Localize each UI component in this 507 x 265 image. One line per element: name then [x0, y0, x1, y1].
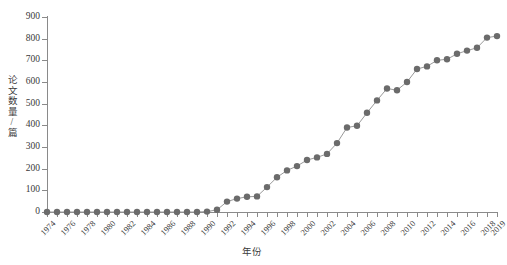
data-point [224, 198, 230, 204]
data-point [374, 97, 380, 103]
x-tick [157, 213, 158, 217]
x-tick [77, 213, 78, 217]
y-tick-label: 900 [0, 12, 40, 22]
y-tick-label-wrap: 700 [0, 55, 40, 65]
x-tick [207, 213, 208, 217]
x-tick [47, 213, 48, 217]
x-tick [287, 213, 288, 217]
x-tick [417, 213, 418, 217]
x-tick [297, 213, 298, 217]
x-axis-line [47, 212, 498, 213]
x-tick [487, 213, 488, 217]
y-tick-label-wrap: 800 [0, 34, 40, 44]
data-point [384, 85, 390, 91]
data-point [274, 174, 280, 180]
y-tick [42, 104, 47, 105]
y-tick [42, 147, 47, 148]
data-point [264, 184, 270, 190]
y-tick [42, 60, 47, 61]
x-tick [137, 213, 138, 217]
x-tick [87, 213, 88, 217]
data-point [424, 63, 430, 69]
data-point [444, 56, 450, 62]
y-tick-label-wrap: 200 [0, 164, 40, 174]
x-tick [177, 213, 178, 217]
y-tick [42, 17, 47, 18]
y-tick-label: 100 [0, 185, 40, 195]
y-tick-label-wrap: 600 [0, 77, 40, 87]
x-tick [267, 213, 268, 217]
data-point [244, 194, 250, 200]
x-tick [217, 213, 218, 217]
y-tick-label: 600 [0, 77, 40, 87]
data-point [284, 167, 290, 173]
x-tick [107, 213, 108, 217]
y-tick-label: 200 [0, 164, 40, 174]
y-tick [42, 190, 47, 191]
x-tick [447, 213, 448, 217]
x-tick [187, 213, 188, 217]
x-tick [57, 213, 58, 217]
x-tick [457, 213, 458, 217]
x-tick [337, 213, 338, 217]
data-point [364, 110, 370, 116]
data-point [394, 87, 400, 93]
data-point [334, 140, 340, 146]
data-point [484, 34, 490, 40]
y-tick-label: 800 [0, 34, 40, 44]
y-tick [42, 169, 47, 170]
data-point [454, 51, 460, 57]
y-tick-label-wrap: 900 [0, 12, 40, 22]
x-tick [97, 213, 98, 217]
x-tick [387, 213, 388, 217]
x-tick [307, 213, 308, 217]
data-point [434, 57, 440, 63]
y-tick-label-wrap: 300 [0, 142, 40, 152]
data-point [474, 45, 480, 51]
y-tick [42, 39, 47, 40]
series-line [47, 36, 497, 212]
series-markers [44, 33, 500, 215]
y-tick [42, 125, 47, 126]
y-tick-label-wrap: 400 [0, 120, 40, 130]
x-tick [407, 213, 408, 217]
x-tick [67, 213, 68, 217]
data-point [354, 123, 360, 129]
data-point [414, 66, 420, 72]
y-tick [42, 82, 47, 83]
x-tick [277, 213, 278, 217]
y-tick-label: 0 [0, 207, 40, 217]
x-tick [377, 213, 378, 217]
x-tick [397, 213, 398, 217]
x-tick [237, 213, 238, 217]
data-point [344, 124, 350, 130]
x-tick [427, 213, 428, 217]
x-tick [117, 213, 118, 217]
data-point [324, 151, 330, 157]
data-point [314, 154, 320, 160]
data-point [494, 33, 500, 39]
y-tick-label-wrap: 500 [0, 99, 40, 109]
x-tick [247, 213, 248, 217]
x-tick [497, 213, 498, 217]
y-tick-label-wrap: 0 [0, 207, 40, 217]
x-tick [147, 213, 148, 217]
x-axis-title: 年份 [0, 248, 503, 258]
data-point [304, 157, 310, 163]
x-tick [197, 213, 198, 217]
x-tick [357, 213, 358, 217]
y-tick-label: 300 [0, 142, 40, 152]
x-tick [257, 213, 258, 217]
x-tick [167, 213, 168, 217]
x-tick [367, 213, 368, 217]
data-point [294, 163, 300, 169]
x-tick [347, 213, 348, 217]
y-axis-line [47, 16, 48, 213]
x-tick [467, 213, 468, 217]
data-point [404, 79, 410, 85]
y-tick-label: 400 [0, 120, 40, 130]
x-tick [127, 213, 128, 217]
x-tick [437, 213, 438, 217]
data-point [464, 47, 470, 53]
x-tick [477, 213, 478, 217]
